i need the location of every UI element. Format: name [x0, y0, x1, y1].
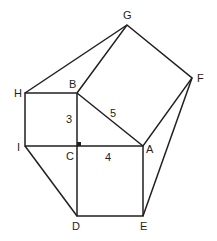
side-label-ca: 4	[105, 151, 111, 163]
side-label-ab: 5	[110, 107, 116, 119]
label-f: F	[197, 72, 204, 84]
label-g: G	[123, 9, 132, 21]
label-h: H	[14, 87, 22, 99]
label-e: E	[140, 220, 147, 232]
pythagorean-diagram: G F H B I C A D E 3 5 4	[0, 0, 217, 241]
label-d: D	[72, 220, 80, 232]
right-angle-marker	[77, 142, 81, 146]
label-i: I	[17, 141, 20, 153]
side-label-bc: 3	[66, 113, 72, 125]
label-c: C	[66, 150, 74, 162]
label-a: A	[146, 143, 154, 155]
diagram-svg: G F H B I C A D E 3 5 4	[0, 0, 217, 241]
label-b: B	[69, 78, 76, 90]
